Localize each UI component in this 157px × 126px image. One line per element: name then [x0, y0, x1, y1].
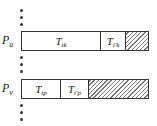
dot [20, 9, 23, 12]
dot [20, 70, 23, 73]
dot [20, 118, 23, 121]
task-segment-t-ip: Tip [22, 80, 60, 98]
dot [20, 56, 23, 59]
dot [20, 63, 23, 66]
dot [20, 111, 23, 114]
processor-label-pu: Pu [2, 34, 13, 51]
idle-hatched-segment [88, 80, 148, 98]
processor-label-pv: Pv [2, 82, 13, 99]
dot [20, 23, 23, 26]
task-segment-t-iprime-k: Ti'k [100, 32, 125, 50]
schedule-bar-pv: Tip Ti'p [21, 79, 149, 99]
dot [20, 16, 23, 19]
task-segment-t-iprime-p: Ti'p [60, 80, 88, 98]
idle-hatched-segment [125, 32, 148, 50]
schedule-bar-pu: Tik Ti'k [21, 31, 149, 51]
task-segment-t-ik: Tik [22, 32, 100, 50]
dot [20, 104, 23, 107]
